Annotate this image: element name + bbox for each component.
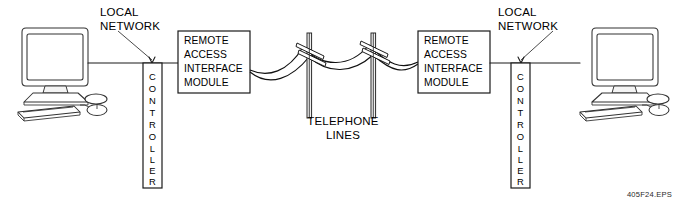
left-computer: [18, 28, 107, 121]
left-module-line3: INTERFACE: [184, 63, 243, 74]
left-module-line4: MODULE: [184, 77, 229, 88]
telephone-pole-left: [296, 33, 326, 118]
left-module-line1: REMOTE: [184, 35, 229, 46]
left-local-network-label-line1: LOCAL: [100, 6, 139, 18]
left-controller-letter-5: O: [149, 131, 156, 142]
left-controller-letter-1: O: [149, 83, 156, 94]
left-controller-letter-2: N: [149, 95, 156, 106]
telephone-lines-label-line1: TELEPHONE: [307, 115, 379, 127]
left-controller-letter-7: L: [150, 154, 155, 165]
right-module-line2: ACCESS: [424, 49, 467, 60]
left-controller-letter-6: L: [150, 143, 155, 154]
right-controller-letter-2: N: [517, 95, 524, 106]
right-computer: [580, 28, 669, 121]
left-controller-letter-4: R: [149, 119, 156, 130]
telephone-pole-right: [360, 33, 390, 118]
right-controller-letter-0: C: [517, 71, 524, 82]
right-controller-letter-5: O: [517, 131, 524, 142]
right-controller-letter-4: R: [517, 119, 524, 130]
left-local-network-leader: [118, 31, 152, 60]
right-remote-access-interface-module: REMOTE ACCESS INTERFACE MODULE: [418, 31, 490, 93]
left-monitor-screen: [27, 34, 83, 80]
left-controller: C O N T R O L L E R: [143, 63, 162, 188]
right-local-network-label-line1: LOCAL: [498, 6, 537, 18]
right-local-network-leader: [521, 31, 553, 60]
left-controller-letter-8: E: [149, 165, 155, 176]
network-diagram: LOCAL NETWORK C O N T R O L L E R REMOTE…: [0, 0, 680, 214]
right-monitor-neck: [612, 86, 637, 93]
left-controller-letter-3: T: [150, 107, 156, 118]
left-controller-letter-0: C: [149, 71, 156, 82]
left-local-network-label-line2: NETWORK: [100, 20, 160, 32]
telephone-wire-lower-span-1: [250, 57, 309, 80]
right-local-network-label-line2: NETWORK: [498, 20, 558, 32]
left-remote-access-interface-module: REMOTE ACCESS INTERFACE MODULE: [178, 31, 250, 93]
left-mousepad: [85, 94, 107, 104]
left-monitor-base: [24, 93, 88, 102]
left-module-line2: ACCESS: [184, 49, 227, 60]
right-module-line3: INTERFACE: [424, 63, 483, 74]
figure-caption: 405F24.EPS: [627, 190, 672, 199]
right-controller-letter-8: E: [517, 165, 523, 176]
left-controller-letter-9: R: [149, 176, 156, 187]
right-module-line1: REMOTE: [424, 35, 469, 46]
right-controller-letter-3: T: [518, 107, 524, 118]
telephone-wire-upper-span-1: [250, 47, 303, 73]
right-mousepad: [647, 94, 669, 104]
right-controller-letter-7: L: [518, 154, 523, 165]
right-module-line4: MODULE: [424, 77, 469, 88]
right-controller-letter-1: O: [517, 83, 524, 94]
telephone-lines-label-line2: LINES: [326, 129, 360, 141]
diagram-canvas: LOCAL NETWORK C O N T R O L L E R REMOTE…: [0, 0, 680, 214]
right-controller-letter-9: R: [517, 176, 524, 187]
right-monitor-screen: [597, 34, 653, 80]
left-monitor-neck: [43, 86, 68, 93]
right-controller: C O N T R O L L E R: [511, 63, 530, 188]
right-controller-letter-6: L: [518, 143, 523, 154]
right-monitor-base: [592, 93, 656, 102]
